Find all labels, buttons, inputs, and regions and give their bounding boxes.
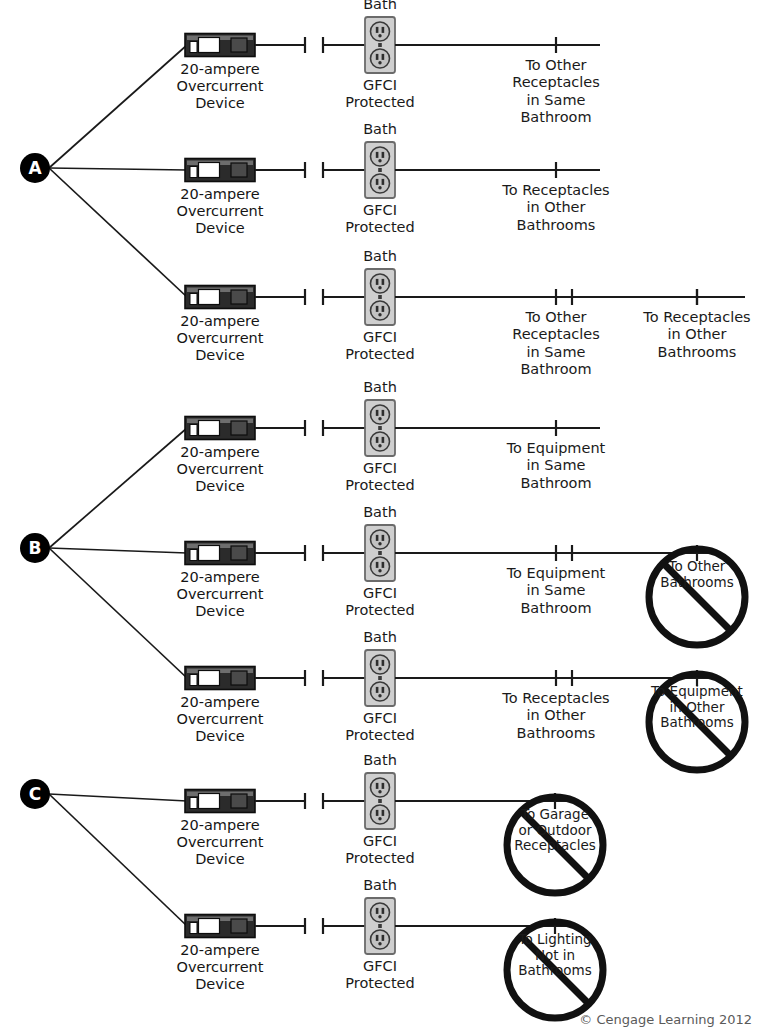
outlet-slot-left-1 [376,783,379,789]
outlet-slot-left-1 [376,535,379,541]
outlet-ground-1 [378,915,381,918]
breaker-tab [190,294,197,305]
outlet-slot-left-1 [376,27,379,33]
outlet-slot-right-1 [382,660,385,666]
breaker-toggle [199,671,220,686]
outlet-ground-1 [378,542,381,545]
receptacle-outlet-2 [371,930,390,949]
circuit-breaker-icon [185,34,255,57]
receptacle-mounting-strap [378,799,382,803]
duplex-receptacle-icon [365,17,395,73]
breaker-tab [190,167,197,178]
receptacle-outlet-2 [371,174,390,193]
receptacle-mounting-strap [378,426,382,430]
outlet-ground-2 [378,61,381,64]
destination-label-A-2-1: To Receptacles in Other Bathrooms [491,182,621,234]
bath-label-C-2: Bath [340,878,420,894]
circuit-breaker-icon [185,417,255,440]
breaker-terminal-block [231,421,247,435]
breaker-terminal-block [231,919,247,933]
breaker-tab [190,675,197,686]
outlet-slot-right-1 [382,279,385,285]
outlet-slot-left-2 [376,179,379,185]
outlet-ground-1 [378,667,381,670]
receptacle-mounting-strap [378,43,382,47]
outlet-ground-2 [378,186,381,189]
destination-label-A-1-1: To Other Receptacles in Same Bathroom [491,57,621,127]
duplex-receptacle-icon [365,400,395,456]
receptacle-outlet-1 [371,274,390,293]
outlet-slot-left-2 [376,306,379,312]
receptacle-outlet-1 [371,655,390,674]
breaker-label-C-1: 20-ampere Overcurrent Device [145,817,295,868]
receptacle-outlet-2 [371,682,390,701]
outlet-slot-right-1 [382,783,385,789]
gfci-protected-label-B-3: GFCI Protected [325,710,435,744]
bath-label-A-1: Bath [340,0,420,13]
destination-label-B-1-1: To Equipment in Same Bathroom [491,440,621,492]
breaker-tab [190,425,197,436]
branch-connector-B-2 [49,548,187,553]
circuit-breaker-icon [185,542,255,565]
outlet-slot-left-1 [376,660,379,666]
outlet-ground-1 [378,286,381,289]
outlet-slot-right-1 [382,908,385,914]
breaker-label-A-3: 20-ampere Overcurrent Device [145,313,295,364]
receptacle-mounting-strap [378,295,382,299]
outlet-slot-left-1 [376,152,379,158]
duplex-receptacle-icon [365,269,395,325]
node-label-C: C [20,786,50,803]
breaker-toggle [199,290,220,305]
gfci-protected-label-B-2: GFCI Protected [325,585,435,619]
circuit-breaker-icon [185,790,255,813]
branch-connector-A-2 [49,168,187,170]
blocked-destination-label-B-3-2: To Equipment in Other Bathrooms [641,684,753,731]
breaker-tab [190,550,197,561]
section-A [20,17,745,325]
receptacle-outlet-2 [371,557,390,576]
blocked-destination-label-B-2-2: To Other Bathrooms [641,559,753,590]
outlet-ground-2 [378,569,381,572]
outlet-ground-2 [378,444,381,447]
receptacle-outlet-2 [371,49,390,68]
receptacle-outlet-1 [371,903,390,922]
receptacle-mounting-strap [378,551,382,555]
breaker-tab [190,42,197,53]
outlet-ground-2 [378,694,381,697]
outlet-slot-left-2 [376,54,379,60]
gfci-protected-label-C-2: GFCI Protected [325,958,435,992]
gfci-protected-label-A-1: GFCI Protected [325,77,435,111]
breaker-tab [190,923,197,934]
breaker-label-B-1: 20-ampere Overcurrent Device [145,444,295,495]
bath-label-C-1: Bath [340,753,420,769]
breaker-toggle [199,38,220,53]
gfci-protected-label-A-2: GFCI Protected [325,202,435,236]
outlet-ground-2 [378,942,381,945]
outlet-ground-2 [378,817,381,820]
receptacle-mounting-strap [378,676,382,680]
breaker-toggle [199,421,220,436]
breaker-terminal-block [231,671,247,685]
outlet-slot-right-2 [382,179,385,185]
node-label-B: B [20,540,50,557]
destination-label-A-3-1: To Other Receptacles in Same Bathroom [491,309,621,379]
outlet-slot-left-1 [376,908,379,914]
outlet-slot-right-1 [382,410,385,416]
receptacle-outlet-1 [371,778,390,797]
circuit-breaker-icon [185,667,255,690]
outlet-slot-right-1 [382,152,385,158]
receptacle-outlet-1 [371,405,390,424]
duplex-receptacle-icon [365,650,395,706]
receptacle-outlet-1 [371,22,390,41]
outlet-slot-right-2 [382,54,385,60]
breaker-label-C-2: 20-ampere Overcurrent Device [145,942,295,993]
bath-label-B-3: Bath [340,630,420,646]
destination-label-A-3-2: To Receptacles in Other Bathrooms [632,309,761,361]
breaker-label-B-3: 20-ampere Overcurrent Device [145,694,295,745]
outlet-slot-right-2 [382,935,385,941]
breaker-tab [190,798,197,809]
receptacle-outlet-2 [371,301,390,320]
breaker-label-A-1: 20-ampere Overcurrent Device [145,61,295,112]
breaker-terminal-block [231,546,247,560]
breaker-terminal-block [231,38,247,52]
